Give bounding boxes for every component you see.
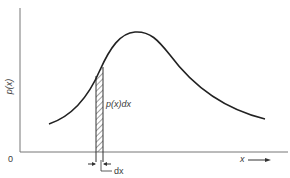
origin-label: 0 xyxy=(8,155,13,164)
density-curve xyxy=(49,32,265,124)
strip-label: p(x)dx xyxy=(106,100,131,109)
dx-label: dx xyxy=(114,167,124,176)
y-axis-label: p(x) xyxy=(5,79,14,95)
x-direction-arrow-head xyxy=(265,158,271,162)
probability-strip xyxy=(96,67,103,152)
dx-arrow-right-head xyxy=(103,162,107,166)
pdf-diagram xyxy=(0,0,290,178)
x-axis-label: x xyxy=(240,155,245,164)
dx-arrow-left-head xyxy=(92,162,96,166)
